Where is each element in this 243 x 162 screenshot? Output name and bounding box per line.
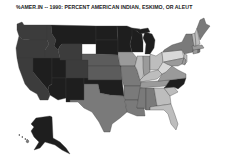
state-wy (58, 44, 82, 60)
state-fl (150, 104, 178, 130)
state-ks (88, 66, 122, 80)
state-co (66, 60, 88, 78)
state-ut (52, 58, 66, 78)
us-choropleth-map (0, 0, 243, 162)
state-sd (96, 40, 118, 55)
state-nd (96, 26, 118, 40)
state-nm (66, 78, 84, 102)
state-me (197, 18, 210, 40)
state-ia (118, 52, 137, 66)
state-ri (198, 49, 200, 53)
state-ak (31, 116, 70, 154)
state-wa (17, 22, 47, 40)
state-hi (19, 134, 29, 143)
